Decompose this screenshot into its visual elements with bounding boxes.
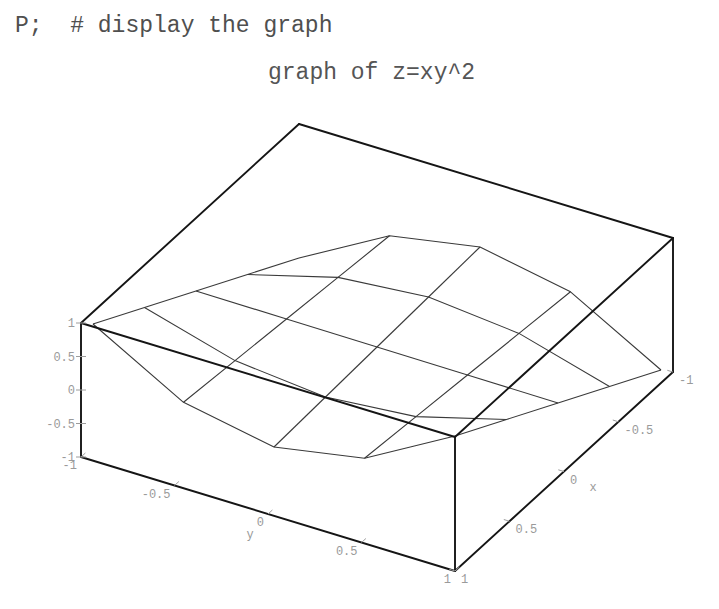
x-tick-mark: [558, 470, 564, 472]
z-tick-label: -0.5: [46, 418, 75, 432]
box-edge: [81, 323, 455, 437]
z-axis: -1-0.500.51: [46, 317, 86, 465]
y-tick-mark: [175, 482, 179, 486]
z-tick-label: 0.5: [53, 351, 75, 365]
x-tick-label: -0.5: [625, 424, 654, 438]
x-axis: -1-0.500.51x: [449, 370, 693, 587]
x-tick-label: 0.5: [516, 523, 538, 537]
plot-area: -1-0.500.51-1-0.500.51y-1-0.500.51x: [0, 0, 719, 609]
y-tick-label: 0: [257, 516, 264, 530]
surface-mesh: [93, 236, 661, 458]
mesh-line-constant-y: [365, 292, 571, 459]
y-tick-label: -1: [63, 459, 77, 473]
y-tick-mark: [268, 510, 272, 514]
mesh-line-constant-y: [93, 258, 299, 324]
y-tick-mark: [362, 539, 366, 543]
x-tick-mark: [613, 420, 619, 422]
z-tick-label: 0: [68, 384, 75, 398]
mesh-line-constant-y: [274, 247, 480, 447]
y-axis-label: y: [246, 528, 253, 542]
y-tick-label: -0.5: [142, 488, 171, 502]
x-axis-label: x: [589, 481, 596, 495]
y-axis: -1-0.500.51y: [63, 453, 460, 587]
mesh-line-constant-x: [145, 308, 507, 420]
box-edge: [299, 124, 673, 238]
x-tick-label: 1: [461, 573, 468, 587]
plot-title: graph of z=xy^2: [268, 62, 475, 85]
mesh-line-constant-y: [184, 236, 390, 402]
x-tick-label: -1: [679, 374, 693, 388]
x-tick-label: 0: [570, 474, 577, 488]
box-edge: [455, 238, 673, 437]
y-tick-label: 0.5: [336, 545, 358, 559]
x-tick-mark: [504, 520, 510, 522]
mesh-line-constant-x: [248, 275, 610, 387]
z-tick-label: 1: [68, 317, 75, 331]
mesh-line-constant-x: [299, 236, 661, 370]
y-tick-label: 1: [444, 573, 451, 587]
